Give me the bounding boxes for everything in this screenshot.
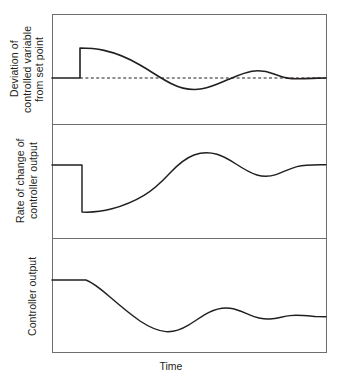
plot-frame <box>53 15 327 353</box>
deviation-curve <box>52 48 326 89</box>
control-response-figure: Deviation of controlled variable from se… <box>0 0 342 380</box>
x-axis-label: Time <box>0 360 342 372</box>
rate-of-change-curve <box>52 153 326 212</box>
controller-output-curve <box>52 280 326 332</box>
plot-area <box>0 0 342 380</box>
